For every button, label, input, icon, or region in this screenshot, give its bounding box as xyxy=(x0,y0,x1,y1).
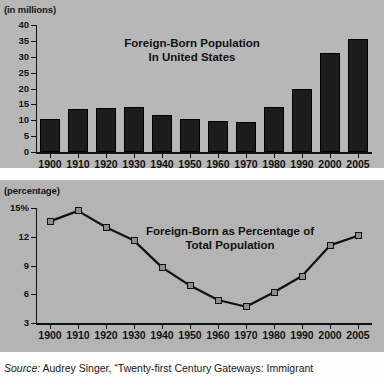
line-chart-data-point xyxy=(243,303,250,310)
bar-chart-panel: (in millions) Foreign-Born Population In… xyxy=(0,0,384,168)
line-chart-panel: (percentage) Foreign-Born as Percentage … xyxy=(0,180,384,352)
bar-chart-title-line2: In United States xyxy=(92,50,292,64)
bar-chart-y-tick-label: 10 xyxy=(2,114,29,125)
bar-chart-x-axis-line xyxy=(36,152,372,154)
source-label: Source: xyxy=(4,362,40,374)
bar-chart-bar xyxy=(68,109,88,152)
bar-chart-bar xyxy=(152,115,172,152)
source-caption: Source: Audrey Singer, “Twenty-first Cen… xyxy=(4,362,380,374)
bar-chart-bar xyxy=(348,39,368,152)
bar-chart-y-tick-label: 20 xyxy=(2,83,29,94)
bar-chart-y-tick-label: 0 xyxy=(2,146,29,157)
bar-chart-y-tick-label: 5 xyxy=(2,130,29,141)
bar-chart-y-tick-label: 40 xyxy=(2,19,29,30)
line-chart-data-point xyxy=(159,264,166,271)
line-chart-data-point xyxy=(75,207,82,214)
bar-chart-bar xyxy=(40,119,60,152)
bar-chart-y-tickmark xyxy=(31,57,36,58)
bar-chart-bar xyxy=(264,107,284,152)
line-chart-data-point xyxy=(299,273,306,280)
bar-chart-title-line1: Foreign-Born Population xyxy=(92,36,292,50)
bar-chart-y-axis-line xyxy=(36,25,37,153)
line-chart-data-point xyxy=(103,224,110,231)
bar-chart-y-tickmark xyxy=(31,104,36,105)
bar-chart-y-tick-label: 30 xyxy=(2,51,29,62)
bar-chart-bar xyxy=(292,89,312,152)
bar-chart-bar xyxy=(236,122,256,153)
bar-chart-y-tickmark xyxy=(31,136,36,137)
bar-chart-bar xyxy=(208,121,228,152)
bar-chart-bar xyxy=(124,107,144,152)
source-text: Audrey Singer, “Twenty-first Century Gat… xyxy=(40,362,313,374)
bar-chart-y-tickmark xyxy=(31,25,36,26)
bar-chart-y-tick-label: 15 xyxy=(2,98,29,109)
line-chart-data-point xyxy=(327,242,334,249)
bar-chart-y-tickmark xyxy=(31,73,36,74)
line-chart-series-line xyxy=(0,180,384,352)
bar-chart-y-tickmark xyxy=(31,152,36,153)
line-chart-data-point xyxy=(215,297,222,304)
bar-chart-bar xyxy=(96,108,116,152)
bar-chart-x-tick-label: 2005 xyxy=(340,158,376,170)
bar-chart-y-tickmark xyxy=(31,89,36,90)
bar-chart-bar xyxy=(320,53,340,152)
bar-chart-y-tick-label: 25 xyxy=(2,67,29,78)
line-chart-data-point xyxy=(271,289,278,296)
bar-chart-y-tick-label: 35 xyxy=(2,35,29,46)
bar-chart-y-axis-caption: (in millions) xyxy=(4,4,56,15)
bar-chart-y-tickmark xyxy=(31,120,36,121)
line-chart-data-point xyxy=(131,237,138,244)
line-chart-x-tick-label: 2005 xyxy=(340,329,376,341)
line-chart-data-point xyxy=(47,218,54,225)
line-chart-data-point xyxy=(187,282,194,289)
line-chart-data-point xyxy=(355,232,362,239)
bar-chart-bar xyxy=(180,119,200,152)
bar-chart-y-tickmark xyxy=(31,41,36,42)
